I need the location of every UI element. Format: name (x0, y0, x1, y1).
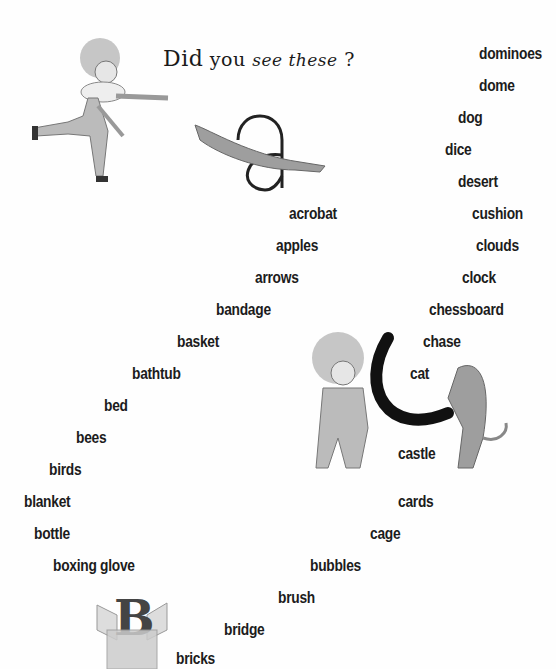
word-bandage: bandage (216, 301, 271, 319)
page-title: Did you see these ? (163, 46, 355, 71)
word-bridge: bridge (224, 621, 265, 639)
word-dice: dice (445, 141, 472, 159)
title-word: ? (344, 48, 355, 70)
word-dog: dog (458, 109, 482, 127)
word-bathtub: bathtub (132, 365, 181, 383)
word-acrobat: acrobat (289, 205, 337, 223)
word-clouds: clouds (476, 237, 519, 255)
word-dome: dome (479, 77, 515, 95)
word-cat: cat (410, 365, 429, 383)
letter-b-box-icon: B (92, 585, 172, 669)
word-castle: castle (398, 445, 435, 463)
word-bees: bees (76, 429, 106, 447)
word-dominoes: dominoes (479, 45, 542, 63)
word-chase: chase (423, 333, 461, 351)
word-bricks: bricks (176, 650, 215, 668)
dog-letter-a-icon (190, 100, 330, 195)
title-word: see these (252, 50, 337, 70)
word-brush: brush (278, 589, 315, 607)
word-birds: birds (49, 461, 81, 479)
word-bed: bed (104, 397, 128, 415)
word-blanket: blanket (24, 493, 70, 511)
word-bottle: bottle (34, 525, 70, 543)
word-chessboard: chessboard (429, 301, 504, 319)
word-basket: basket (177, 333, 219, 351)
word-arrows: arrows (255, 269, 299, 287)
word-cushion: cushion (472, 205, 523, 223)
word-bubbles: bubbles (310, 557, 361, 575)
word-clock: clock (462, 269, 496, 287)
word-apples: apples (276, 237, 318, 255)
word-cards: cards (398, 493, 433, 511)
clown-running-icon (28, 36, 173, 191)
word-desert: desert (458, 173, 498, 191)
word-boxing-glove: boxing glove (53, 557, 135, 575)
title-word: you (210, 48, 246, 70)
word-cage: cage (370, 525, 400, 543)
